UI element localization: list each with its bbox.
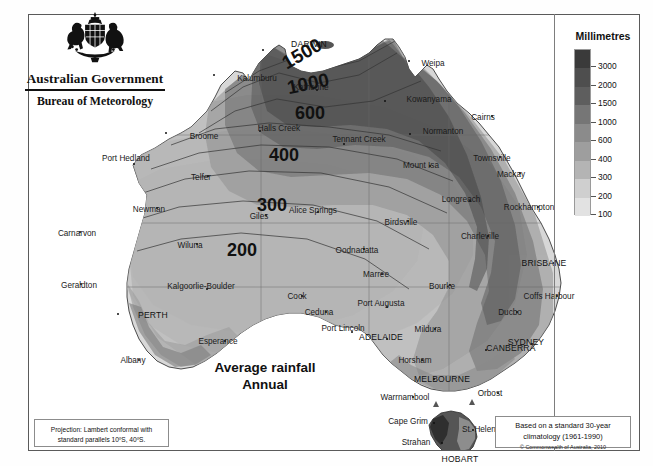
city-label-geraldton: Geraldton (61, 281, 97, 290)
legend-tick-mark (591, 177, 596, 178)
legend-tick-value: 400 (598, 154, 612, 164)
legend-swatch-3000 (575, 50, 590, 68)
legend-swatch-2000 (575, 68, 590, 86)
legend-swatch-1000 (575, 105, 590, 123)
copyright-notice: © Commonwealth of Australia, 2010 (496, 444, 630, 450)
city-label-albany: Albany (120, 356, 145, 365)
agency-divider (25, 89, 165, 91)
city-label-marree: Marree (363, 270, 389, 279)
city-label-alice-springs: Alice Springs (289, 206, 337, 215)
legend-tick-mark (591, 85, 596, 86)
city-label-birdsville: Birdsville (385, 218, 418, 227)
city-label-rockhampton: Rockhampton (504, 203, 555, 212)
projection-info-box: Projection: Lambert conformal with stand… (34, 419, 169, 447)
legend-swatch-200 (575, 179, 590, 197)
city-label-kalgoorlie-boulder: Kalgoorlie-Boulder (167, 282, 234, 291)
page-title: Average rainfall Annual (185, 360, 345, 394)
city-marker (409, 133, 411, 135)
city-label-mackay: Mackay (497, 170, 525, 179)
title-line-1: Average rainfall (185, 360, 345, 377)
city-label-port-lincoln: Port Lincoln (321, 324, 364, 333)
capital-label-adelaide: ADELAIDE (359, 332, 403, 342)
legend-divider (554, 14, 555, 451)
legend-tick-mark (591, 122, 596, 123)
legend-tick-mark (591, 214, 596, 215)
capital-label-darwin: DARWIN (291, 39, 327, 49)
australian-coat-of-arms-icon (59, 10, 131, 68)
title-line-2: Annual (185, 377, 345, 394)
capital-marker (117, 313, 119, 315)
climatology-line-2: climatology (1961-1990) (496, 432, 630, 443)
contour-label-400: 400 (269, 145, 299, 166)
legend-tick-value: 300 (598, 172, 612, 182)
city-label-warrnambool: Warrnambool (381, 393, 430, 402)
legend-tick-value: 3000 (598, 61, 617, 71)
capital-label-hobart: HOBART (442, 454, 479, 464)
legend-tick-value: 1500 (598, 98, 617, 108)
capital-label-melbourne: MELBOURNE (414, 374, 470, 384)
city-label-broome: Broome (190, 132, 219, 141)
city-label-weipa: Weipa (421, 59, 444, 68)
city-label-giles: Giles (250, 212, 269, 221)
legend-swatch-600 (575, 124, 590, 142)
legend-tick-mark (591, 140, 596, 141)
bureau-label: Bureau of Meteorology (10, 94, 180, 109)
legend-tick-value: 100 (598, 209, 612, 219)
legend-tick-value: 600 (598, 135, 612, 145)
legend-tick-mark (591, 159, 596, 160)
city-label-horsham: Horsham (398, 356, 431, 365)
city-label-coffs-harbour: Coffs Harbour (524, 292, 575, 301)
city-label-newman: Newman (133, 205, 165, 214)
projection-line-2: standard parallels 10ºS, 40ºS. (35, 435, 168, 445)
projection-line-1: Projection: Lambert conformal with (35, 425, 168, 435)
city-label-mount-isa: Mount Isa (403, 161, 439, 170)
legend-tick-value: 2000 (598, 80, 617, 90)
city-label-kalumburu: Kalumburu (237, 74, 277, 83)
legend-tick-mark (591, 196, 596, 197)
rainfall-legend: Millimetres 3000200015001000600400300200… (560, 30, 646, 215)
legend-tick-value: 1000 (598, 117, 617, 127)
city-marker (165, 132, 167, 134)
city-label-halls-creek: Halls Creek (258, 124, 300, 133)
city-label-townsville: Townsville (473, 154, 510, 163)
legend-tick-value: 200 (598, 191, 612, 201)
city-label-cape-grim: Cape Grim (388, 417, 428, 426)
city-label-mildura: Mildura (415, 325, 442, 334)
rainfall-map-page: 1500 1000 600 400 300 200 DARWINPERTHADE… (0, 0, 653, 466)
city-label-normanton: Normanton (423, 127, 464, 136)
agency-branding: Australian Government Bureau of Meteorol… (10, 10, 180, 109)
city-label-oodnadatta: Oodnadatta (336, 246, 379, 255)
city-marker (213, 74, 215, 76)
capital-label-brisbane: BRISBANE (521, 258, 566, 268)
city-label-charleville: Charleville (461, 232, 499, 241)
legend-swatch-100 (575, 198, 590, 216)
capital-label-perth: PERTH (138, 310, 168, 320)
legend-title: Millimetres (560, 30, 646, 42)
legend-tick-mark (591, 66, 596, 67)
city-label-port-augusta: Port Augusta (358, 299, 405, 308)
legend-tick-mark (591, 103, 596, 104)
city-label-port-hedland: Port Hedland (102, 154, 150, 163)
capital-label-canberra: CANBERRA (486, 343, 535, 353)
city-label-ducbo: Ducbo (498, 308, 522, 317)
city-label-telfer: Telfer (191, 173, 211, 182)
legend-colorbar-wrap: 3000200015001000600400300200100 (574, 49, 642, 215)
city-label-esperance: Esperance (198, 337, 237, 346)
city-label-strahan: Strahan (402, 438, 431, 447)
city-label-longreach: Longreach (442, 195, 481, 204)
city-label-tennant-creek: Tennant Creek (332, 135, 385, 144)
city-marker (384, 100, 386, 102)
city-label-katherine: Katherine (293, 83, 328, 92)
city-label-kowanyama: Kowanyama (406, 95, 451, 104)
legend-swatch-300 (575, 161, 590, 179)
contour-label-600: 600 (295, 103, 325, 124)
city-marker (433, 422, 435, 424)
city-label-wiluna: Wiluna (177, 241, 202, 250)
government-label: Australian Government (10, 71, 180, 87)
city-label-bourke: Bourke (429, 282, 455, 291)
city-label-carnarvon: Carnarvon (58, 229, 96, 238)
capital-marker (262, 49, 264, 51)
contour-label-200: 200 (227, 240, 257, 261)
legend-colorbar (574, 49, 591, 215)
legend-swatch-400 (575, 142, 590, 160)
